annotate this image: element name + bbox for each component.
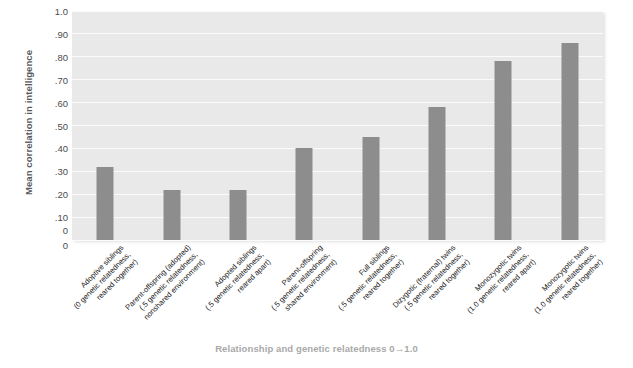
bar-slot <box>404 11 470 240</box>
bar[interactable] <box>362 137 379 240</box>
bar-slot <box>470 11 536 240</box>
x-axis-category-label-line: (.5 genetic relatedness, <box>130 250 200 320</box>
bar-slot <box>138 11 204 240</box>
bar-slot <box>338 11 404 240</box>
bar-slot <box>205 11 271 240</box>
y-axis-tick-label: .80 <box>55 51 68 62</box>
y-axis-tick-label: .30 <box>55 166 68 177</box>
x-axis-category-label: Adopted siblings(.5 genetic relatedness,… <box>196 243 273 320</box>
y-axis-title-text: Mean correlation in intelligence <box>24 50 35 195</box>
y-axis-title: Mean correlation in intelligence <box>18 0 40 245</box>
x-axis-category-label-line: (.5 genetic relatedness, <box>398 250 465 317</box>
x-axis-category-label: Dizygotic (fraternal) twins(.5 genetic r… <box>391 243 473 325</box>
y-axis-tick-label: .40 <box>55 143 68 154</box>
bar[interactable] <box>296 148 313 240</box>
bar[interactable] <box>561 43 578 240</box>
x-axis-category-labels: Adoptive siblings(0 genetic relatedness,… <box>72 243 603 338</box>
y-axis-tick-label: .50 <box>55 120 68 131</box>
y-axis-tick-label: 1.0 <box>55 6 68 17</box>
x-axis-category-label: Parent-offspring(.5 genetic relatedness,… <box>262 243 339 320</box>
bar-slot <box>271 11 337 240</box>
x-axis-caption: Relationship and genetic relatedness 0→1… <box>0 343 633 354</box>
y-axis-tick-label: .20 <box>55 189 68 200</box>
y-axis-tick-label: .10 <box>55 212 68 223</box>
y-axis-tick-label: .90 <box>55 28 68 39</box>
bar[interactable] <box>97 167 114 240</box>
bar-slot <box>72 11 138 240</box>
x-axis-category-label: Full siblings(.5 genetic relatedness,rea… <box>329 243 406 320</box>
x-axis-category-label: Monozygotic twins(1.0 genetic relatednes… <box>525 243 605 323</box>
x-axis-category-label-line: (1.0 genetic relatedness, <box>532 250 598 316</box>
bar-slot <box>537 11 603 240</box>
x-axis-category-label: Parent-offspring (adopted)(.5 genetic re… <box>123 243 207 327</box>
bar[interactable] <box>495 61 512 240</box>
y-axis-tick-labels: 1.0.90.80.70.60.50.40.30.20.1000 <box>38 0 68 245</box>
bar-chart-figure: Mean correlation in intelligence 1.0.90.… <box>0 0 633 368</box>
y-axis-tick-label: .60 <box>55 97 68 108</box>
bar[interactable] <box>163 190 180 240</box>
bar-series <box>72 11 603 240</box>
y-axis-tick-label: 0 <box>63 239 68 250</box>
x-axis-category-label: Monozygotic twins(1.0 genetic relatednes… <box>459 243 539 323</box>
y-axis-tick-label: .70 <box>55 74 68 85</box>
bar[interactable] <box>229 190 246 240</box>
bar[interactable] <box>429 107 446 240</box>
plot-area <box>72 11 603 240</box>
y-axis-tick-label: 0 <box>63 224 68 235</box>
